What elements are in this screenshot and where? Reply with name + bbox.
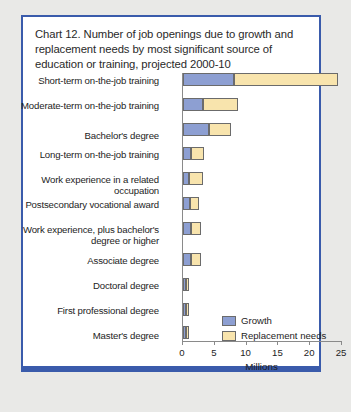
bar-segment-growth [183,197,190,210]
bar-row [183,197,199,210]
category-label: Postsecondary vocational award [9,199,159,210]
bar-row [183,73,338,86]
category-label: Doctoral degree [9,280,159,291]
bar-segment-replacement [190,197,199,210]
bar-row [183,123,231,136]
category-label: Moderate-term on-the-job training [9,100,159,111]
legend-swatch-growth-icon [222,316,236,326]
legend-item-growth: Growth [222,313,326,328]
bar-segment-replacement [186,326,189,339]
bar-segment-growth [183,147,191,160]
bar-segment-replacement [186,303,189,316]
x-axis-tick [214,341,215,345]
legend-swatch-replacement-icon [222,331,236,341]
chart-card: Chart 12. Number of job openings due to … [21,15,321,372]
x-axis-tick-label: 5 [201,347,227,358]
category-label: Master's degree [9,330,159,341]
bar-row [183,278,189,291]
bar-row [183,303,189,316]
bar-segment-growth [183,123,209,136]
bar-segment-replacement [234,73,338,86]
x-axis-tick [182,341,183,345]
category-label: Short-term on-the-job training [9,75,159,86]
bar-segment-replacement [203,98,238,111]
category-label: Work experience in a related occupation [9,174,159,196]
plot-area: Short-term on-the-job training Moderate-… [23,73,319,368]
bar-segment-growth [183,98,203,111]
category-label: Bachelor's degree [9,130,159,141]
bar-row [183,222,201,235]
bar-segment-replacement [191,222,201,235]
legend-item-replacement: Replacement needs [222,328,326,343]
category-label: First professional degree [9,305,159,316]
x-axis-tick-label: 10 [233,347,259,358]
x-axis-tick-label: 15 [264,347,290,358]
category-label: Associate degree [9,255,159,266]
bar-row [183,326,189,339]
bar-segment-growth [183,222,191,235]
category-label: Long-term on-the-job training [9,149,159,160]
bar-row [183,98,238,111]
bar-segment-replacement [209,123,231,136]
bar-segment-replacement [191,253,201,266]
bar-segment-growth [183,73,234,86]
bar-row [183,172,203,185]
category-label: Work experience, plus bachelor's degree … [9,224,159,246]
chart-legend: Growth Replacement needs [222,313,326,343]
x-axis-tick [341,341,342,345]
bar-segment-replacement [186,278,189,291]
bar-segment-replacement [189,172,203,185]
legend-label-replacement: Replacement needs [241,330,326,341]
chart-title: Chart 12. Number of job openings due to … [35,27,313,73]
bar-row [183,147,204,160]
bar-segment-replacement [191,147,204,160]
x-axis-tick-label: 25 [328,347,351,358]
legend-label-growth: Growth [241,315,272,326]
x-axis-tick-label: 0 [169,347,195,358]
x-axis-tick-label: 20 [296,347,322,358]
x-axis-title: Millions [182,361,341,372]
bar-segment-growth [183,253,191,266]
bar-row [183,253,201,266]
